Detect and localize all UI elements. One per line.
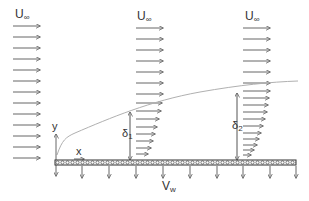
delta-2-label: δ2 bbox=[232, 120, 243, 133]
suction-velocity-label: Vw bbox=[162, 180, 176, 194]
freestream-label-3: U∞ bbox=[245, 10, 259, 24]
inlet-velocity-profile bbox=[13, 26, 40, 158]
y-axis-label: y bbox=[52, 121, 58, 132]
velocity-profile-2 bbox=[243, 28, 270, 155]
freestream-label-1: U∞ bbox=[15, 8, 29, 22]
freestream-label-2: U∞ bbox=[137, 10, 151, 24]
velocity-profile-1 bbox=[136, 28, 163, 154]
x-axis-label: x bbox=[76, 146, 82, 157]
porous-plate bbox=[55, 160, 296, 165]
boundary-layer-diagram bbox=[0, 0, 309, 201]
boundary-layer-edge-curve bbox=[57, 81, 298, 155]
wall-suction-arrows bbox=[82, 166, 296, 178]
delta-1-label: δ1 bbox=[122, 128, 133, 141]
